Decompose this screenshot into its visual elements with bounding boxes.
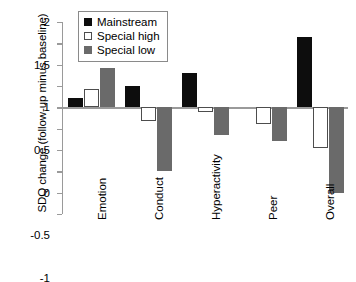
y-axis-tick-label: 1.5	[34, 59, 50, 71]
bar-conduct-special-high	[141, 107, 156, 121]
bar-hyperactivity-mainstream	[182, 73, 197, 107]
gray-square-icon	[84, 46, 92, 54]
white-square-icon	[84, 32, 92, 40]
legend-item: Special low	[84, 43, 160, 57]
y-axis-tick: -2.5	[57, 214, 62, 215]
legend-label: Mainstream	[97, 16, 157, 28]
bar-hyperactivity-special-high	[198, 107, 213, 112]
y-axis-tick-label: -0.5	[30, 229, 50, 241]
y-axis-tick-label: -1	[40, 272, 50, 282]
bar-conduct-special-low	[157, 107, 172, 171]
x-axis-label-emotion: Emotion	[96, 178, 108, 220]
bar-hyperactivity-special-low	[214, 107, 229, 135]
y-axis-tick-label: 2	[44, 16, 50, 28]
bar-emotion-special-high	[84, 89, 99, 107]
bar-peer-special-high	[256, 107, 271, 124]
x-axis-label-peer: Peer	[267, 196, 279, 220]
black-square-icon	[84, 18, 92, 26]
legend-label: Special high	[97, 30, 160, 42]
x-axis-label-conduct: Conduct	[153, 177, 165, 220]
bar-overall-mainstream	[297, 37, 312, 107]
y-axis-tick-label: 1	[44, 101, 50, 113]
x-axis-label-overall: Overall	[324, 184, 336, 220]
y-axis-title: SDQ change (follow-up minus baseline)	[36, 0, 48, 248]
y-axis-tick-label: 0.5	[34, 144, 50, 156]
y-axis-tick-label: 0	[44, 187, 50, 199]
bar-emotion-mainstream	[68, 98, 83, 107]
legend-label: Special low	[97, 44, 155, 56]
chart-figure: SDQ change (follow-up minus baseline) 21…	[0, 0, 356, 282]
bar-group	[176, 22, 233, 214]
legend-item: Special high	[84, 29, 160, 43]
bar-overall-special-high	[313, 107, 328, 148]
x-axis-label-hyperactivity: Hyperactivity	[210, 154, 222, 220]
bar-conduct-mainstream	[125, 86, 140, 107]
legend-item: Mainstream	[84, 15, 160, 29]
bar-overall-special-low	[329, 107, 344, 192]
bar-group	[234, 22, 291, 214]
bar-emotion-special-low	[100, 68, 115, 107]
bar-peer-special-low	[272, 107, 287, 141]
bar-group	[291, 22, 348, 214]
chart-legend: MainstreamSpecial highSpecial low	[78, 11, 168, 62]
